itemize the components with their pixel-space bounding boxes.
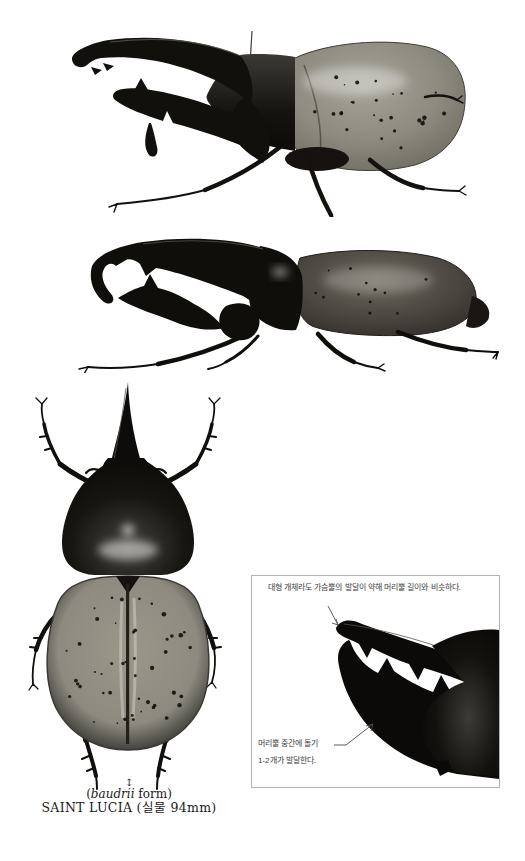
photo-side-view-major-male: [55, 25, 467, 217]
caption-locality-line: SAINT LUCIA (실물 94mm): [29, 801, 229, 815]
pronotum-glare: [272, 267, 288, 277]
annotation-note-top: 대형 개체라도 가슴뿔의 발달이 약해 머리뿔 길이와 비슷하다.: [268, 582, 461, 593]
annotation-note-bottom-line1: 머리뿔 중간에 돌기: [258, 735, 318, 752]
pronotum-highlight: [98, 540, 158, 560]
legs: [79, 332, 498, 373]
book-page: ↕ (baudrii form) SAINT LUCIA (실물 94mm): [0, 0, 525, 861]
head-horn-tooth: [135, 78, 148, 90]
specimen-caption: ↕ (baudrii form) SAINT LUCIA (실물 94mm): [29, 777, 229, 815]
arrow-to-head-horn-teeth: [334, 724, 373, 745]
horn-teeth: [91, 63, 114, 75]
elytron-highlight: [323, 267, 433, 293]
pronotum-glare: [122, 524, 134, 536]
photo-dorsal-view: [28, 378, 243, 790]
form-rest: form): [135, 787, 172, 801]
mouthparts: [145, 123, 157, 157]
annotation-note-bottom-line2: 1-2개가 발달한다.: [258, 752, 318, 769]
head: [219, 303, 259, 340]
annotation-box: 대형 개체라도 가슴뿔의 발달이 약해 머리뿔 길이와 비슷하다. 머리뿔 중간…: [251, 575, 500, 788]
elytron-highlight: [303, 67, 407, 95]
photo-side-view-minor-male: [48, 236, 500, 373]
form-name-italic: baudrii: [91, 787, 135, 801]
annotation-note-bottom: 머리뿔 중간에 돌기 1-2개가 발달한다.: [258, 735, 318, 769]
arrow-to-pronotal-horn: [328, 606, 338, 625]
